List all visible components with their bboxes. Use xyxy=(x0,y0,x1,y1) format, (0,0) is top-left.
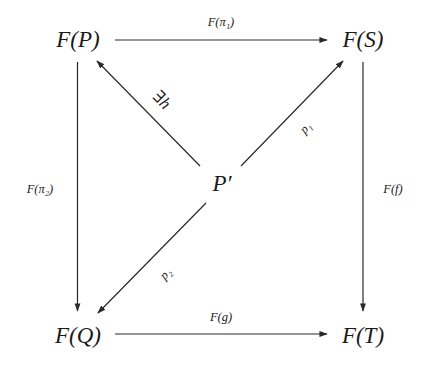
node-p-prime: P′ xyxy=(212,171,231,197)
arrow-p2 xyxy=(98,203,206,313)
arrow-p1 xyxy=(241,61,343,166)
node-fq: F(Q) xyxy=(55,323,101,349)
label-right: F(f) xyxy=(383,182,402,197)
label-bottom: F(g) xyxy=(210,310,232,325)
label-top: F(π₁) xyxy=(208,15,235,30)
node-ft: F(T) xyxy=(342,323,384,349)
node-fs: F(S) xyxy=(343,27,384,53)
arrow-h xyxy=(97,61,200,166)
label-left: F(π₂) xyxy=(27,182,54,197)
node-fp: F(P) xyxy=(56,27,99,53)
